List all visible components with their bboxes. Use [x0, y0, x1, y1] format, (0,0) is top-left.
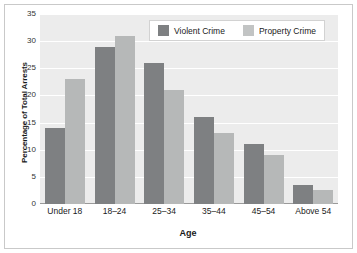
legend-label-property-crime: Property Crime — [259, 26, 316, 36]
legend-swatch-violent-crime — [158, 25, 169, 36]
bar-property-crime[interactable] — [264, 155, 284, 204]
bar-property-crime[interactable] — [313, 190, 333, 204]
bar-group — [90, 14, 140, 204]
y-tick-label: 5 — [14, 173, 36, 181]
bar-property-crime[interactable] — [65, 79, 85, 204]
x-axis-title: Age — [38, 228, 338, 238]
bar-group — [189, 14, 239, 204]
legend-swatch-property-crime — [243, 25, 254, 36]
y-axis-tick-labels: 05101520253035 — [14, 14, 36, 204]
y-tick-label: 0 — [14, 200, 36, 208]
x-tick-label: 45–54 — [239, 206, 289, 216]
bar-group — [288, 14, 338, 204]
bar-violent-crime[interactable] — [144, 63, 164, 204]
bar-property-crime[interactable] — [214, 133, 234, 204]
x-tick-label: 18–24 — [90, 206, 140, 216]
bar-violent-crime[interactable] — [293, 185, 313, 204]
x-tick-label: 35–44 — [189, 206, 239, 216]
chart-legend: Violent Crime Property Crime — [149, 20, 325, 41]
x-tick-label: Above 54 — [288, 206, 338, 216]
legend-label-violent-crime: Violent Crime — [174, 26, 225, 36]
bar-group — [239, 14, 289, 204]
bar-groups — [40, 14, 338, 204]
bar-property-crime[interactable] — [115, 36, 135, 204]
y-tick-label: 15 — [14, 119, 36, 127]
x-axis-tick-labels: Under 1818–2425–3435–4445–54Above 54 — [40, 206, 338, 216]
bar-property-crime[interactable] — [164, 90, 184, 204]
bar-group — [40, 14, 90, 204]
legend-entry-property-crime[interactable]: Property Crime — [243, 25, 316, 36]
bar-violent-crime[interactable] — [194, 117, 214, 204]
legend-entry-violent-crime[interactable]: Violent Crime — [158, 25, 225, 36]
plot-area — [40, 14, 338, 204]
y-tick-label: 20 — [14, 91, 36, 99]
y-tick-label: 25 — [14, 64, 36, 72]
y-tick-label: 35 — [14, 10, 36, 18]
bar-group — [139, 14, 189, 204]
y-tick-label: 30 — [14, 37, 36, 45]
chart-figure: Percentage of Total Arrests 051015202530… — [0, 0, 357, 253]
bar-violent-crime[interactable] — [95, 47, 115, 204]
bar-violent-crime[interactable] — [45, 128, 65, 204]
x-tick-label: 25–34 — [139, 206, 189, 216]
x-tick-label: Under 18 — [40, 206, 90, 216]
bar-violent-crime[interactable] — [244, 144, 264, 204]
y-tick-label: 10 — [14, 146, 36, 154]
